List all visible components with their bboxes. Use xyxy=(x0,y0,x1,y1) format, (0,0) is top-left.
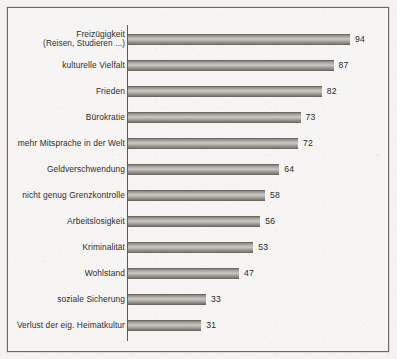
bar-category-label-line1: Geldverschwendung xyxy=(47,164,125,175)
bar-category-label-line1: Verlust der eig. Heimatkultur xyxy=(17,320,125,331)
bar-track: 31 xyxy=(128,312,390,338)
bar xyxy=(128,268,239,279)
bar-value-label: 31 xyxy=(206,320,216,331)
bar-category-label-line1: Frieden xyxy=(96,86,125,97)
bar xyxy=(128,112,301,123)
bar-category-label-line1: Bürokratie xyxy=(86,112,125,123)
bar-value-label: 58 xyxy=(270,190,280,201)
bar-row: Geldverschwendung64 xyxy=(8,156,390,182)
bar-row: Wohlstand47 xyxy=(8,260,390,286)
bar xyxy=(128,242,253,253)
bar-chart-plot-area: Freizügigkeit(Reisen, Studieren ...)94ku… xyxy=(8,8,390,353)
bar-track: 33 xyxy=(128,286,390,312)
bar xyxy=(128,294,206,305)
bar-track: 56 xyxy=(128,208,390,234)
bar-category-label: Geldverschwendung xyxy=(0,156,125,182)
bar-category-label: kulturelle Vielfalt xyxy=(0,52,125,78)
bar-track: 64 xyxy=(128,156,390,182)
bar-value-label: 56 xyxy=(265,216,275,227)
bar-value-label: 33 xyxy=(211,294,221,305)
bar-row: soziale Sicherung33 xyxy=(8,286,390,312)
bar-category-label-line1: soziale Sicherung xyxy=(57,294,125,305)
bar-value-label: 53 xyxy=(258,242,268,253)
bar-category-label: Kriminalität xyxy=(0,234,125,260)
bar-value-label: 47 xyxy=(244,268,254,279)
bar-value-label: 64 xyxy=(284,164,294,175)
bar-track: 87 xyxy=(128,52,390,78)
bar-track: 94 xyxy=(128,26,390,52)
bar-row: Bürokratie73 xyxy=(8,104,390,130)
bar-category-label-line1: Wohlstand xyxy=(85,268,125,279)
bar xyxy=(128,190,265,201)
chart-frame: Freizügigkeit(Reisen, Studieren ...)94ku… xyxy=(7,7,389,352)
bar-category-label-line2: (Reisen, Studieren ...) xyxy=(43,39,125,50)
bar-track: 82 xyxy=(128,78,390,104)
bar-category-label-line1: Arbeitslosigkeit xyxy=(67,216,125,227)
bar-category-label-line1: nicht genug Grenzkontrolle xyxy=(22,190,125,201)
bar-category-label: nicht genug Grenzkontrolle xyxy=(0,182,125,208)
bar-category-label: Verlust der eig. Heimatkultur xyxy=(0,312,125,338)
bar xyxy=(128,138,298,149)
bar-category-label: Arbeitslosigkeit xyxy=(0,208,125,234)
bar-category-label-line1: kulturelle Vielfalt xyxy=(62,60,125,71)
bar-category-label-line1: mehr Mitsprache in der Welt xyxy=(18,138,125,149)
bar xyxy=(128,60,334,71)
bar-track: 53 xyxy=(128,234,390,260)
bar xyxy=(128,216,260,227)
bar-row: Freizügigkeit(Reisen, Studieren ...)94 xyxy=(8,26,390,52)
bar-category-label: Wohlstand xyxy=(0,260,125,286)
bar-row: mehr Mitsprache in der Welt72 xyxy=(8,130,390,156)
bar-row: Frieden82 xyxy=(8,78,390,104)
bar xyxy=(128,320,201,331)
bar-category-label: Bürokratie xyxy=(0,104,125,130)
bar-row: nicht genug Grenzkontrolle58 xyxy=(8,182,390,208)
bar-row: Arbeitslosigkeit56 xyxy=(8,208,390,234)
bar-value-label: 94 xyxy=(355,34,365,45)
bar-row: Verlust der eig. Heimatkultur31 xyxy=(8,312,390,338)
bar-track: 47 xyxy=(128,260,390,286)
bar xyxy=(128,164,279,175)
bar-value-label: 72 xyxy=(303,138,313,149)
bar-track: 72 xyxy=(128,130,390,156)
bar-category-label-line1: Freizügigkeit xyxy=(76,29,125,40)
bar-category-label: mehr Mitsprache in der Welt xyxy=(0,130,125,156)
bar xyxy=(128,86,322,97)
bar-value-label: 73 xyxy=(306,112,316,123)
bar-category-label: soziale Sicherung xyxy=(0,286,125,312)
scanned-page: Freizügigkeit(Reisen, Studieren ...)94ku… xyxy=(0,0,397,359)
bar-row: kulturelle Vielfalt87 xyxy=(8,52,390,78)
bar-row: Kriminalität53 xyxy=(8,234,390,260)
bar-category-label: Freizügigkeit(Reisen, Studieren ...) xyxy=(0,26,125,52)
bar-category-label-line1: Kriminalität xyxy=(82,242,125,253)
bar-category-label: Frieden xyxy=(0,78,125,104)
bar-track: 58 xyxy=(128,182,390,208)
bar-track: 73 xyxy=(128,104,390,130)
bar-value-label: 82 xyxy=(327,86,337,97)
bar xyxy=(128,34,350,45)
bar-value-label: 87 xyxy=(339,60,349,71)
